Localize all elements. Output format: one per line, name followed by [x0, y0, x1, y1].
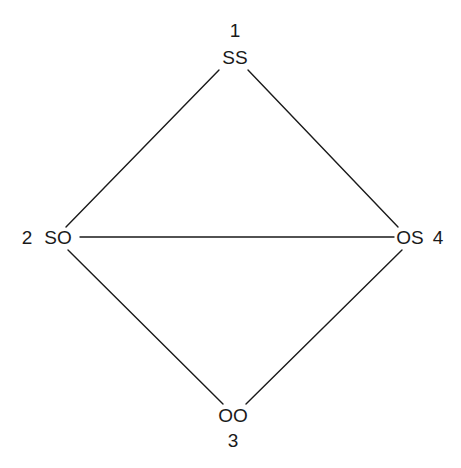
node-so: 2 SO	[22, 227, 72, 248]
node-label-os: OS	[396, 227, 423, 248]
edge-ss-so	[66, 70, 219, 227]
node-number-2: 2	[22, 227, 33, 248]
diagram-canvas: 1 SS 2 SO OO 3 OS 4	[0, 0, 461, 468]
node-number-3: 3	[228, 430, 239, 451]
edge-os-oo	[246, 250, 402, 404]
node-oo: OO 3	[218, 405, 248, 451]
node-number-1: 1	[230, 20, 241, 41]
node-number-4: 4	[433, 227, 444, 248]
node-label-so: SO	[44, 227, 71, 248]
edge-so-oo	[68, 250, 223, 404]
node-label-oo: OO	[218, 405, 248, 426]
node-os: OS 4	[396, 227, 443, 248]
edges	[66, 70, 402, 404]
node-label-ss: SS	[222, 47, 247, 68]
edge-ss-os	[248, 70, 398, 227]
node-ss: 1 SS	[222, 20, 247, 68]
